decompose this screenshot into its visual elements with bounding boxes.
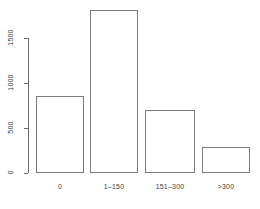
y-axis-tick-0 [24,173,28,174]
y-axis-tick-1500 [24,38,28,39]
x-axis-tick-label: >300 [202,183,250,190]
y-axis-tick-label-1500: 1500 [7,26,14,50]
bar [202,147,250,173]
bar-chart: 0 500 1000 1500 0 1–150 151–300 >300 [0,0,260,209]
plot-area: 0 500 1000 1500 0 1–150 151–300 >300 [0,0,260,209]
bar [36,96,84,173]
y-axis-tick-500 [24,128,28,129]
x-axis-tick-label: 1–150 [90,183,138,190]
x-axis-tick-label: 0 [36,183,84,190]
y-axis-tick-label-500: 500 [7,116,14,140]
bar [145,110,195,173]
y-axis-tick-label-0: 0 [7,161,14,185]
y-axis-tick-label-1000: 1000 [7,71,14,95]
y-axis-tick-1000 [24,83,28,84]
y-axis-line [28,38,29,173]
bar [90,10,138,173]
x-axis-tick-label: 151–300 [145,183,195,190]
